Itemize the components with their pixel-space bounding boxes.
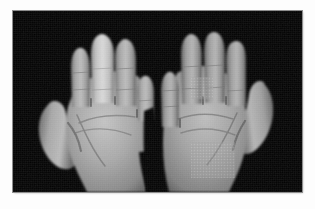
hands-photograph-image [13, 11, 302, 192]
clinical-photograph [13, 11, 302, 192]
figure-root [0, 0, 315, 209]
figure-caption [13, 194, 302, 207]
film-grain-overlay [13, 11, 302, 192]
